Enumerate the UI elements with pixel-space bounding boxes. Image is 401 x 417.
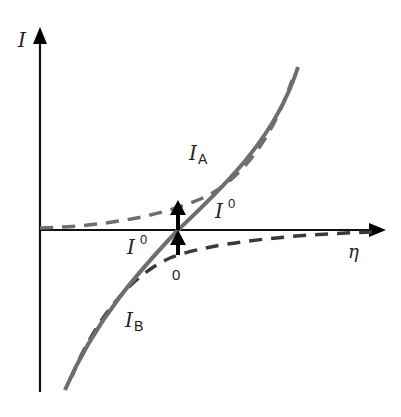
current-overpotential-diagram: I η 0 I A I B I 0 I 0 — [0, 0, 401, 417]
exchange-current-label-upper: I 0 — [214, 196, 235, 223]
anodic-current-curve — [40, 80, 292, 228]
anodic-label: I A — [188, 141, 208, 167]
net-current-curve — [65, 67, 298, 390]
svg-text:0: 0 — [140, 232, 147, 247]
y-axis — [33, 27, 47, 392]
x-axis-arrowhead-icon — [369, 223, 386, 237]
exchange-current-label-lower: I 0 — [126, 232, 147, 259]
svg-text:I: I — [124, 308, 134, 332]
svg-text:B: B — [134, 318, 143, 334]
cathodic-label: I B — [124, 308, 143, 334]
svg-text:I: I — [188, 141, 198, 165]
y-axis-arrowhead-icon — [33, 27, 47, 44]
x-axis-label: η — [348, 241, 359, 262]
origin-label: 0 — [172, 266, 180, 283]
svg-text:I: I — [126, 235, 136, 259]
y-axis-label: I — [17, 28, 27, 52]
svg-text:A: A — [198, 151, 208, 167]
svg-text:0: 0 — [228, 196, 235, 211]
svg-text:I: I — [214, 199, 224, 223]
